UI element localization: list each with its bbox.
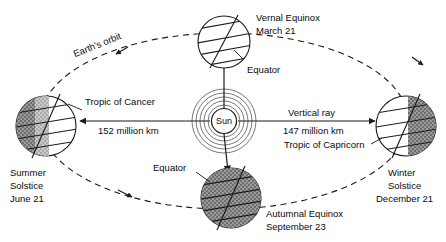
sun-label: Sun xyxy=(216,116,232,126)
globe-night-shading xyxy=(198,163,266,235)
equator-label-bottom: Equator xyxy=(153,162,186,173)
summer-solstice-label-line1: Summer xyxy=(10,167,46,178)
seasons-svg: Sun xyxy=(0,0,446,242)
vernal-equinox-label-line2: March 21 xyxy=(256,25,296,36)
vertical-ray-label: Vertical ray xyxy=(288,107,335,118)
seasons-diagram: Sun xyxy=(0,0,446,242)
tropic-of-capricorn-label: Tropic of Capricorn xyxy=(284,139,364,150)
earths-orbit-label: Earth's orbit xyxy=(72,30,123,59)
winter-solstice-label-line2: Solstice xyxy=(388,180,421,191)
globe-vernal-equinox xyxy=(192,15,258,68)
leader-equator-bottom xyxy=(196,172,210,182)
summer-solstice-label-line3: June 21 xyxy=(10,193,44,204)
orbit-direction-arrow-right xyxy=(412,57,423,65)
distance-right-label: 147 million km xyxy=(283,125,344,136)
vernal-equinox-label-line1: Vernal Equinox xyxy=(256,12,320,23)
globe-autumnal-equinox xyxy=(196,163,268,235)
globe-night-shading xyxy=(408,90,440,165)
autumnal-equinox-label-line2: September 23 xyxy=(266,221,326,232)
equator-label-top: Equator xyxy=(247,64,280,75)
autumnal-equinox-label-line1: Autumnal Equinox xyxy=(266,208,343,219)
winter-solstice-label-line1: Winter xyxy=(388,167,415,178)
globe-winter-solstice xyxy=(370,90,444,165)
globe-summer-solstice xyxy=(8,90,84,165)
winter-solstice-label-line3: December 21 xyxy=(376,193,433,204)
tropic-of-cancer-label: Tropic of Cancer xyxy=(85,96,155,107)
distance-left-label: 152 million km xyxy=(98,125,159,136)
summer-solstice-label-line2: Solstice xyxy=(10,180,43,191)
